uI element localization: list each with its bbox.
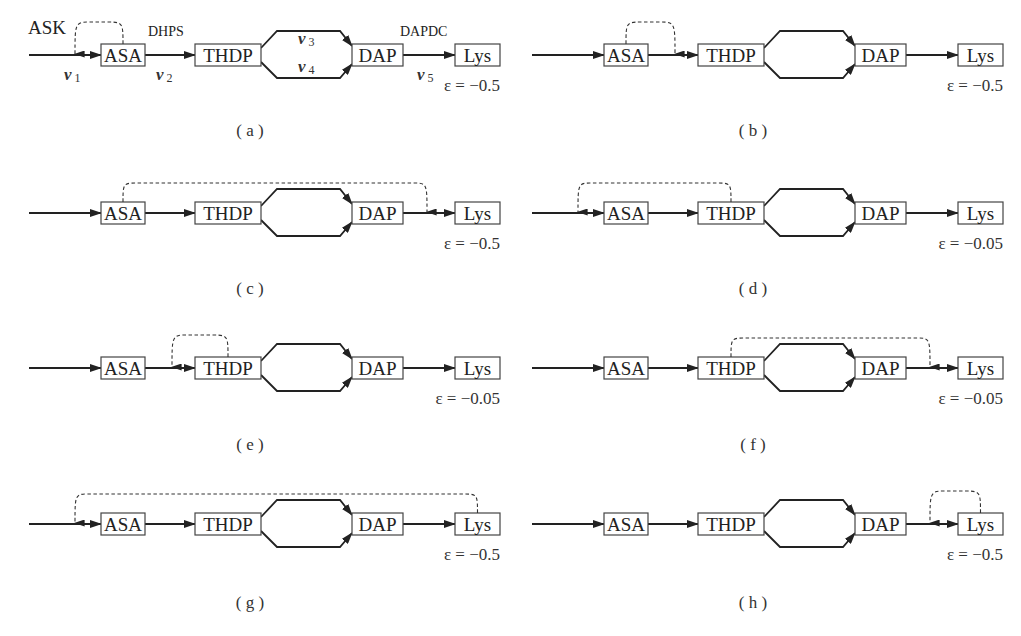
node-lys-label: Lys: [967, 203, 994, 224]
node-dap-label: DAP: [358, 358, 396, 379]
flux-v3-arrow: [261, 31, 352, 48]
flux-v3-arrow: [764, 31, 855, 48]
flux-v4-arrow: [261, 375, 352, 391]
node-dap-label: DAP: [861, 514, 899, 535]
panel-caption: ( c ): [236, 279, 263, 298]
node-thdp-label: THDP: [203, 358, 253, 379]
panel-caption: ( f ): [740, 435, 765, 454]
enzyme-dhps-label: DHPS: [148, 24, 184, 39]
node-asa-label: ASA: [607, 203, 645, 224]
node-thdp-label: THDP: [706, 358, 756, 379]
flux-v4-arrow: [261, 220, 352, 236]
elasticity-label: ε = −0.05: [435, 389, 500, 408]
node-lys-label: Lys: [967, 514, 994, 535]
panel-caption: ( d ): [739, 279, 767, 298]
panel-a: ASATHDPDAPLysε = −0.5( a )ASKDHPSDAPDCv1…: [28, 17, 500, 140]
panel-c: ASATHDPDAPLysε = −0.5( c ): [29, 183, 500, 298]
node-asa-label: ASA: [607, 358, 645, 379]
elasticity-label: ε = −0.5: [444, 234, 500, 253]
node-lys-label: Lys: [464, 45, 491, 66]
flux-v4-arrow: [764, 531, 855, 547]
flux-v5-label: v5: [417, 65, 434, 85]
node-asa-label: ASA: [104, 514, 142, 535]
flux-v3-arrow: [261, 189, 352, 206]
flux-v3-arrow: [764, 500, 855, 517]
node-dap-label: DAP: [861, 45, 899, 66]
node-thdp-label: THDP: [203, 45, 253, 66]
node-dap-label: DAP: [358, 203, 396, 224]
panel-f: ASATHDPDAPLysε = −0.05( f ): [532, 338, 1003, 454]
elasticity-label: ε = −0.05: [938, 389, 1003, 408]
panel-b: ASATHDPDAPLysε = −0.5( b ): [532, 22, 1003, 140]
flux-v3-label: v3: [298, 29, 315, 49]
flux-v3-arrow: [764, 189, 855, 206]
flux-v4-arrow: [261, 62, 352, 78]
enzyme-ask-label: ASK: [28, 17, 66, 38]
flux-v4-arrow: [764, 62, 855, 78]
panel-h: ASATHDPDAPLysε = −0.5( h ): [532, 491, 1003, 612]
flux-v1-label: v1: [64, 65, 81, 85]
flux-v4-label: v4: [298, 57, 315, 77]
panel-caption: ( e ): [236, 435, 263, 454]
node-lys-label: Lys: [967, 358, 994, 379]
node-asa-label: ASA: [104, 45, 142, 66]
panel-caption: ( a ): [236, 121, 263, 140]
elasticity-label: ε = −0.5: [444, 76, 500, 95]
node-thdp-label: THDP: [706, 514, 756, 535]
node-lys-label: Lys: [464, 203, 491, 224]
node-dap-label: DAP: [861, 358, 899, 379]
flux-v2-label: v2: [156, 65, 173, 85]
node-asa-label: ASA: [104, 203, 142, 224]
node-thdp-label: THDP: [203, 514, 253, 535]
node-dap-label: DAP: [358, 45, 396, 66]
panel-e: ASATHDPDAPLysε = −0.05( e ): [29, 335, 500, 454]
node-dap-label: DAP: [861, 203, 899, 224]
flux-v3-arrow: [261, 500, 352, 517]
flux-v4-arrow: [764, 375, 855, 391]
panel-caption: ( b ): [739, 121, 767, 140]
flux-v3-arrow: [764, 344, 855, 361]
node-thdp-label: THDP: [706, 45, 756, 66]
node-thdp-label: THDP: [203, 203, 253, 224]
node-asa-label: ASA: [607, 45, 645, 66]
flux-v3-arrow: [261, 344, 352, 361]
panel-d: ASATHDPDAPLysε = −0.05( d ): [532, 183, 1003, 298]
node-thdp-label: THDP: [706, 203, 756, 224]
elasticity-label: ε = −0.05: [938, 234, 1003, 253]
node-asa-label: ASA: [104, 358, 142, 379]
panel-caption: ( h ): [739, 593, 767, 612]
node-dap-label: DAP: [358, 514, 396, 535]
node-asa-label: ASA: [607, 514, 645, 535]
elasticity-label: ε = −0.5: [947, 76, 1003, 95]
node-lys-label: Lys: [464, 514, 491, 535]
enzyme-dapdc-label: DAPDC: [400, 24, 447, 39]
panel-g: ASATHDPDAPLysε = −0.5( g ): [29, 494, 500, 612]
flux-v4-arrow: [261, 531, 352, 547]
elasticity-label: ε = −0.5: [444, 545, 500, 564]
flux-v4-arrow: [764, 220, 855, 236]
node-lys-label: Lys: [464, 358, 491, 379]
elasticity-label: ε = −0.5: [947, 545, 1003, 564]
lysine-pathway-feedback-figure: ASATHDPDAPLysε = −0.5( a )ASKDHPSDAPDCv1…: [0, 0, 1021, 636]
panel-caption: ( g ): [236, 593, 264, 612]
node-lys-label: Lys: [967, 45, 994, 66]
